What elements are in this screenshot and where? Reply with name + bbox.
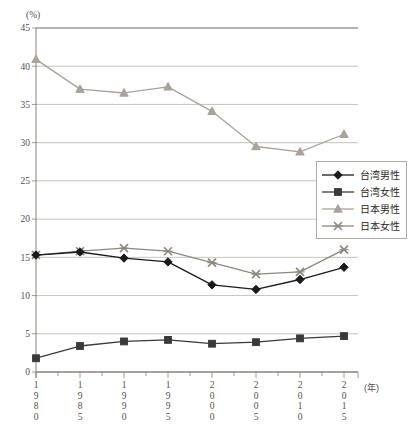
data-point-台湾男性-2010 [296, 275, 304, 283]
legend-label: 日本男性 [360, 201, 400, 216]
x-axis-label-digit: 1 [293, 401, 307, 412]
data-point-台湾男性-1995 [164, 258, 172, 266]
series-日本男性 [32, 55, 348, 155]
x-axis-label-digit: 2 [293, 380, 307, 391]
x-axis-label-digit: 1 [29, 380, 43, 391]
x-axis-label-digit: 0 [249, 401, 263, 412]
x-axis-label-2015: 2015 [337, 380, 351, 422]
x-axis-label-digit: 0 [205, 401, 219, 412]
data-point-台湾女性-2005 [253, 339, 260, 346]
data-point-台湾女性-1985 [77, 343, 84, 350]
legend-label: 台湾男性 [360, 167, 400, 182]
legend-marker-cross-icon [321, 219, 355, 233]
x-axis-label-1985: 1985 [73, 380, 87, 422]
x-axis-label-digit: 0 [205, 391, 219, 402]
x-axis-label-digit: 9 [161, 401, 175, 412]
x-axis-label-digit: 9 [117, 391, 131, 402]
x-axis-label-digit: 1 [161, 380, 175, 391]
x-axis-label-digit: 0 [293, 412, 307, 423]
chart-legend: 台湾男性台湾女性日本男性日本女性 [316, 161, 407, 239]
x-axis-label-2010: 2010 [293, 380, 307, 422]
x-axis-label-digit: 1 [117, 380, 131, 391]
x-axis-label-digit: 2 [205, 380, 219, 391]
y-tick-label-20: 20 [21, 214, 31, 224]
x-axis-label-digit: 0 [337, 391, 351, 402]
x-axis-label-1990: 1990 [117, 380, 131, 422]
data-point-台湾男性-1990 [120, 254, 128, 262]
data-point-台湾女性-1980 [33, 355, 40, 362]
x-axis-label-digit: 8 [73, 401, 87, 412]
x-axis-label-digit: 1 [73, 380, 87, 391]
y-tick-label-30: 30 [21, 138, 31, 148]
x-axis-unit-label: (年) [364, 381, 379, 394]
x-axis-label-digit: 2 [249, 380, 263, 391]
x-axis-label-digit: 0 [293, 391, 307, 402]
legend-label: 日本女性 [360, 218, 400, 233]
data-point-台湾男性-2000 [208, 281, 216, 289]
data-point-日本男性-1995 [164, 82, 172, 90]
x-axis-label-digit: 5 [249, 412, 263, 423]
data-point-日本男性-2015 [340, 130, 348, 138]
x-axis-label-digit: 0 [29, 412, 43, 423]
data-point-台湾女性-1990 [121, 338, 128, 345]
data-point-日本男性-2000 [208, 107, 216, 115]
x-axis-label-digit: 0 [249, 391, 263, 402]
x-axis-label-digit: 0 [205, 412, 219, 423]
data-point-台湾女性-2000 [209, 340, 216, 347]
x-axis-label-2005: 2005 [249, 380, 263, 422]
x-axis-label-1995: 1995 [161, 380, 175, 422]
y-axis-unit-label: (%) [26, 10, 40, 21]
legend-marker-glyph [334, 170, 342, 178]
series-台湾女性 [33, 333, 348, 362]
legend-marker-diamond-icon [321, 168, 355, 182]
data-point-台湾女性-1995 [165, 336, 172, 343]
y-tick-label-15: 15 [21, 253, 31, 263]
y-tick-label-25: 25 [21, 176, 31, 186]
y-tick-label-45: 45 [21, 23, 31, 33]
legend-marker-glyph [335, 188, 342, 195]
y-tick-label-0: 0 [25, 367, 30, 377]
x-axis-label-2000: 2000 [205, 380, 219, 422]
legend-item-台湾男性: 台湾男性 [321, 166, 400, 183]
data-point-日本男性-1980 [32, 55, 40, 63]
legend-marker-square-icon [321, 185, 355, 199]
x-axis-label-digit: 9 [117, 401, 131, 412]
data-point-日本男性-1985 [76, 85, 84, 93]
x-axis-label-digit: 2 [337, 380, 351, 391]
legend-marker-triangle-icon [321, 202, 355, 216]
legend-item-日本女性: 日本女性 [321, 217, 400, 234]
y-tick-label-5: 5 [25, 329, 30, 339]
x-axis-label-digit: 5 [337, 412, 351, 423]
line-chart: (%)051015202530354045 198019851990199520… [0, 0, 413, 425]
legend-item-日本男性: 日本男性 [321, 200, 400, 217]
x-axis-label-digit: 8 [29, 401, 43, 412]
x-axis-label-digit: 9 [161, 391, 175, 402]
y-tick-label-35: 35 [21, 100, 31, 110]
data-point-台湾女性-2015 [341, 333, 348, 340]
series-line-日本男性 [36, 59, 344, 151]
legend-label: 台湾女性 [360, 184, 400, 199]
data-point-台湾男性-2015 [340, 263, 348, 271]
data-point-台湾女性-2010 [297, 335, 304, 342]
data-point-台湾男性-2005 [252, 285, 260, 293]
data-point-日本男性-2005 [252, 142, 260, 150]
y-tick-label-40: 40 [21, 62, 31, 72]
x-axis-label-digit: 5 [161, 412, 175, 423]
x-axis-label-digit: 0 [117, 412, 131, 423]
x-axis-label-digit: 9 [73, 391, 87, 402]
y-tick-label-10: 10 [21, 291, 31, 301]
x-axis-label-digit: 9 [29, 391, 43, 402]
x-axis-label-1980: 1980 [29, 380, 43, 422]
legend-item-台湾女性: 台湾女性 [321, 183, 400, 200]
x-axis-label-digit: 1 [337, 401, 351, 412]
x-axis-label-digit: 5 [73, 412, 87, 423]
